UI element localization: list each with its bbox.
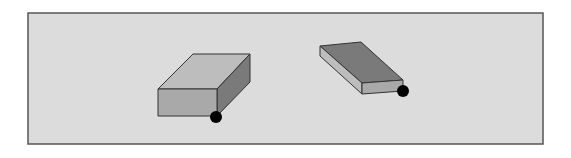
front-face (362, 80, 403, 94)
diagram-frame (28, 13, 543, 144)
diagram-canvas (0, 0, 571, 158)
corner-dot (397, 85, 409, 97)
corner-dot (210, 111, 222, 123)
front-face (158, 89, 217, 116)
